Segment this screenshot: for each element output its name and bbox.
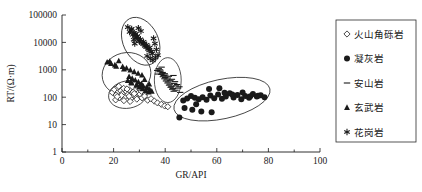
y-tick-label: 10 [48, 120, 58, 130]
data-point [206, 86, 212, 92]
x-tick-label: 40 [160, 156, 170, 166]
data-point [193, 101, 199, 107]
y-tick-label: 100000 [29, 10, 58, 20]
legend-item[interactable]: 玄武岩 [344, 102, 384, 113]
data-point [344, 56, 350, 62]
x-axis-title: GR/API [175, 170, 206, 180]
legend-item-label: 安山岩 [354, 78, 384, 89]
data-point [116, 58, 122, 64]
data-point [182, 105, 188, 111]
x-tick-label: 100 [313, 156, 328, 166]
y-tick-label: 1 [52, 147, 57, 157]
legend-item[interactable]: 凝灰岩 [344, 53, 384, 64]
data-point [247, 93, 253, 99]
data-point [216, 85, 222, 91]
y-tick-label: 10000 [33, 38, 57, 48]
legend-marker-asterisk [344, 129, 350, 135]
series-filled-circle [176, 85, 267, 120]
data-point [255, 93, 261, 99]
data-point [209, 109, 215, 115]
data-point [152, 40, 158, 46]
legend-item-label: 玄武岩 [354, 102, 384, 113]
legend-item-label: 火山角砾岩 [354, 29, 404, 40]
legend-item-label: 花岗岩 [354, 127, 384, 138]
resistivity-gamma-ray-crossplot: 020406080100GR/API110100100010000100000R… [0, 0, 422, 192]
legend-marker-filled-triangle [344, 104, 350, 110]
legend-item[interactable]: 花岗岩 [344, 127, 384, 138]
legend-item[interactable]: 安山岩 [344, 78, 384, 89]
x-tick-label: 20 [109, 156, 119, 166]
data-point [198, 109, 204, 115]
plot-axes [62, 15, 320, 152]
legend-item[interactable]: 火山角砾岩 [344, 29, 404, 40]
legend: 火山角砾岩凝灰岩安山岩玄武岩花岗岩 [344, 29, 404, 138]
data-point [229, 92, 235, 98]
legend-marker-open-diamond [344, 31, 350, 37]
x-tick-label: 80 [264, 156, 274, 166]
x-tick-label: 60 [212, 156, 222, 166]
data-point [344, 129, 350, 135]
data-point [240, 89, 246, 95]
data-point [344, 104, 350, 110]
data-point [176, 115, 182, 121]
y-tick-label: 1000 [38, 65, 57, 75]
legend-marker-filled-circle [344, 56, 350, 62]
y-axis-title: RT/(Ω·m) [6, 64, 17, 102]
data-point [222, 90, 228, 96]
data-point [262, 94, 268, 100]
data-point [344, 31, 350, 37]
legend-item-label: 凝灰岩 [354, 53, 384, 64]
y-tick-label: 100 [43, 93, 58, 103]
series-dash [154, 67, 183, 92]
data-point [189, 107, 195, 113]
figure-container: 020406080100GR/API110100100010000100000R… [0, 0, 422, 192]
x-tick-label: 0 [60, 156, 65, 166]
data-point [151, 35, 157, 41]
